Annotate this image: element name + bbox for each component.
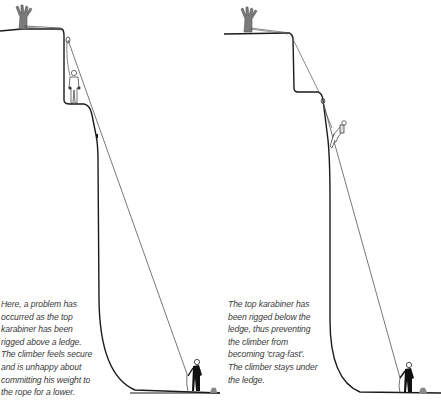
caption-line: The climber feels secure (1, 348, 131, 361)
belayer-icon (187, 359, 202, 392)
panel-karabiner-above-ledge: Here, a problem has occurred as the top … (0, 0, 220, 400)
caption-line: becoming 'crag-fast'. (228, 348, 353, 361)
panel-karabiner-below-ledge: The top karabiner has been rigged below … (220, 0, 441, 400)
caption-line: and is unhappy about (1, 361, 131, 374)
caption-line: rigged above a ledge. (1, 336, 131, 349)
caption-line: The climber stays under (228, 361, 353, 374)
caption-line: the climber from (228, 336, 353, 349)
caption-line: the ledge. (228, 374, 353, 387)
caption-line: the rope for a lower. (1, 386, 131, 399)
caption-line: karabiner has been (1, 323, 131, 336)
caption-left: Here, a problem has occurred as the top … (1, 298, 131, 399)
caption-right: The top karabiner has been rigged below … (228, 298, 353, 386)
caption-line: occurred as the top (1, 311, 131, 324)
climber-icon (330, 121, 346, 148)
caption-line: ledge, thus preventing (228, 323, 353, 336)
caption-line: The top karabiner has (228, 298, 353, 311)
caption-line: committing his weight to (1, 374, 131, 387)
tree-anchor-icon (16, 5, 32, 29)
belayer-icon (399, 362, 414, 393)
caption-line: been rigged below the (228, 311, 353, 324)
caption-line: Here, a problem has (1, 298, 131, 311)
climber-icon (69, 70, 80, 103)
rope-to-climber (67, 41, 70, 76)
